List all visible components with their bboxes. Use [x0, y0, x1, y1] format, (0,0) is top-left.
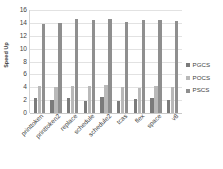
bar-PSCS-flex [142, 20, 145, 113]
bar-group [31, 10, 48, 113]
y-axis-tick-2: 2 [23, 97, 27, 104]
legend-item-PGCS[interactable]: PGCS [186, 62, 223, 68]
bar-group [131, 10, 148, 113]
legend-swatch-icon [186, 89, 190, 93]
bar-group [81, 10, 98, 113]
bar-PGCS-space [150, 98, 153, 113]
legend-label: PSCS [193, 87, 210, 93]
y-axis-tick-labels: 0246810121416 [12, 10, 27, 113]
bar-POCS-space [154, 86, 157, 113]
bar-PSCS-schedule [92, 20, 95, 113]
y-axis-tick-4: 4 [23, 84, 27, 91]
y-axis-tick-16: 16 [20, 7, 27, 14]
legend-item-POCS[interactable]: POCS [186, 75, 223, 81]
bar-PSCS-space [158, 20, 161, 113]
speed-up-bar-chart: Speed Up 0246810121416 printtokenprintto… [0, 0, 223, 169]
bar-PSCS-printtoken [42, 24, 45, 113]
legend-label: PGCS [193, 62, 211, 68]
bar-group [148, 10, 165, 113]
x-axis-tick-text: tcas [116, 113, 129, 126]
y-axis-tick-14: 14 [20, 20, 27, 27]
bar-POCS-v8 [171, 87, 174, 113]
legend: PGCSPOCSPSCS [186, 62, 223, 100]
bar-POCS-printtoken [38, 86, 41, 113]
legend-swatch-icon [186, 76, 190, 80]
bar-group [164, 10, 181, 113]
bar-POCS-flex [138, 88, 141, 113]
legend-label: POCS [193, 75, 211, 81]
legend-item-PSCS[interactable]: PSCS [186, 87, 223, 93]
y-axis-tick-6: 6 [23, 71, 27, 78]
bar-POCS-schedule [88, 86, 91, 113]
y-axis-tick-10: 10 [20, 45, 27, 52]
bar-PGCS-printtoken [34, 98, 37, 113]
y-axis-tick-0: 0 [23, 110, 27, 117]
x-axis-tick-labels: printtokenprinttoken2replaceschedulesche… [29, 113, 182, 169]
y-axis-title: Speed Up [3, 33, 9, 77]
y-axis-tick-8: 8 [23, 58, 27, 65]
legend-swatch-icon [186, 63, 190, 67]
y-axis-tick-12: 12 [20, 32, 27, 39]
x-axis-tick-text: v8 [170, 113, 179, 122]
x-axis-tick-text: space [146, 113, 163, 130]
x-axis-tick-text: flex [134, 113, 146, 125]
bar-PSCS-v8 [175, 21, 178, 113]
